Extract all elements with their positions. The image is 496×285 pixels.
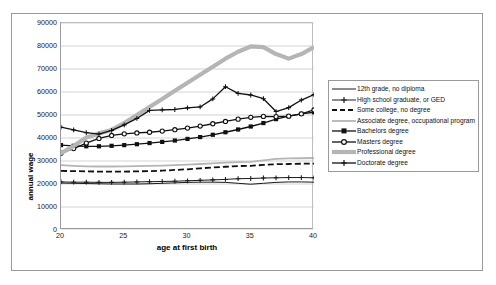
legend-item[interactable]: Bachelors degree — [331, 126, 475, 137]
data-point-marker — [261, 114, 265, 118]
legend-key-icon — [331, 126, 357, 136]
x-axis-title: age at first birth — [60, 243, 314, 252]
data-point-marker — [135, 142, 139, 146]
x-axis-tick-label: 20 — [56, 231, 64, 240]
legend-item-label: Some college, no degree — [357, 105, 430, 115]
data-point-marker — [210, 177, 215, 182]
data-point-marker — [286, 175, 291, 180]
data-point-marker — [97, 144, 101, 148]
data-point-marker — [198, 124, 202, 128]
data-point-marker — [185, 126, 189, 130]
legend-key-icon — [331, 95, 357, 105]
data-point-marker — [61, 125, 63, 130]
y-axis-title-container: annual wage — [14, 60, 28, 180]
data-point-marker — [236, 127, 240, 131]
legend-item-label: Doctorate degree — [357, 158, 408, 168]
data-point-marker — [135, 131, 139, 135]
chart-container: 0100002000030000400005000060000700008000… — [0, 0, 496, 285]
data-point-marker — [122, 132, 126, 136]
legend-item-label: Associate degree, occupational program — [357, 116, 475, 126]
data-point-marker — [147, 141, 151, 145]
x-axis-tick-labels: 2025303540 — [60, 231, 314, 243]
legend-item-label: High school graduate, or GED — [357, 95, 445, 105]
data-point-marker — [236, 117, 240, 121]
y-axis-tick-label: 50000 — [37, 110, 57, 119]
y-axis-tick-label: 30000 — [37, 156, 57, 165]
plot-area — [60, 22, 313, 229]
data-point-marker — [160, 129, 164, 133]
y-axis-tick-label: 10000 — [37, 202, 57, 211]
data-point-marker — [223, 130, 227, 134]
data-point-marker — [185, 137, 189, 141]
legend-key-icon — [331, 147, 357, 157]
x-axis-tick-label: 25 — [119, 231, 127, 240]
data-point-marker — [274, 115, 278, 119]
series-line — [61, 158, 314, 167]
data-point-marker — [71, 128, 76, 133]
legend-item[interactable]: Professional degree — [331, 147, 475, 158]
legend-item[interactable]: Masters degree — [331, 137, 475, 148]
data-point-marker — [173, 138, 177, 142]
x-axis-tick-label: 40 — [309, 231, 317, 240]
y-axis-tick-label: 40000 — [37, 133, 57, 142]
data-point-marker — [160, 140, 164, 144]
legend-key-icon — [331, 116, 357, 126]
data-point-marker — [110, 133, 114, 137]
legend-key-icon — [331, 105, 357, 115]
data-point-marker — [249, 124, 253, 128]
data-point-marker — [160, 108, 165, 113]
legend-item[interactable]: Associate degree, occupational program — [331, 116, 475, 127]
data-point-marker — [236, 176, 241, 181]
legend-item-label: Masters degree — [357, 137, 403, 147]
data-point-marker — [172, 107, 177, 112]
legend-key-icon — [331, 84, 357, 94]
data-point-marker — [61, 143, 63, 147]
legend-item-label: 12th grade, no diploma — [357, 84, 424, 94]
legend-key-icon — [331, 158, 357, 168]
legend-item-label: Professional degree — [357, 147, 416, 157]
data-point-marker — [173, 128, 177, 132]
data-point-marker — [84, 141, 88, 145]
x-axis-tick-label: 30 — [183, 231, 191, 240]
y-axis-tick-label: 90000 — [37, 18, 57, 27]
data-point-marker — [84, 130, 89, 135]
data-point-marker — [110, 144, 114, 148]
data-point-marker — [261, 121, 265, 125]
legend-item[interactable]: Some college, no degree — [331, 105, 475, 116]
data-point-marker — [223, 177, 228, 182]
data-point-marker — [299, 175, 304, 180]
legend-key-icon — [331, 137, 357, 147]
legend-item[interactable]: Doctorate degree — [331, 158, 475, 169]
y-axis-tick-label: 60000 — [37, 87, 57, 96]
y-axis-tick-label: 20000 — [37, 179, 57, 188]
legend-item[interactable]: 12th grade, no diploma — [331, 84, 475, 95]
data-point-marker — [287, 114, 291, 118]
y-axis-title: annual wage — [26, 117, 35, 237]
data-point-marker — [312, 92, 314, 97]
data-point-marker — [185, 105, 190, 110]
data-point-marker — [97, 136, 101, 140]
data-point-marker — [122, 143, 126, 147]
series-3 — [61, 158, 314, 167]
chart-legend: 12th grade, no diplomaHigh school gradua… — [328, 80, 479, 172]
data-point-marker — [299, 112, 303, 116]
data-point-marker — [274, 175, 279, 180]
series-1 — [61, 175, 314, 185]
data-point-marker — [248, 93, 253, 98]
data-point-marker — [248, 176, 253, 181]
data-point-marker — [312, 175, 314, 180]
data-point-marker — [198, 135, 202, 139]
plot-svg — [61, 23, 314, 230]
y-axis-tick-label: 80000 — [37, 41, 57, 50]
data-point-marker — [147, 130, 151, 134]
data-point-marker — [249, 115, 253, 119]
data-point-marker — [211, 133, 215, 137]
y-axis-tick-label: 70000 — [37, 64, 57, 73]
legend-item[interactable]: High school graduate, or GED — [331, 95, 475, 106]
data-point-marker — [261, 176, 266, 181]
x-axis-tick-label: 35 — [246, 231, 254, 240]
data-point-marker — [211, 122, 215, 126]
data-point-marker — [223, 119, 227, 123]
legend-item-label: Bachelors degree — [357, 126, 409, 136]
data-point-marker — [312, 108, 314, 112]
